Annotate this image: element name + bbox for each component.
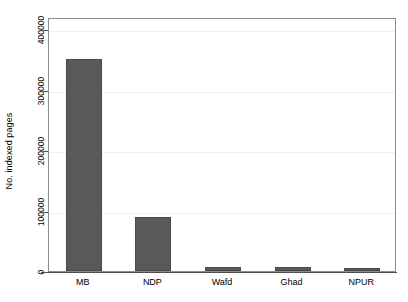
y-axis-title: No. indexed pages (0, 0, 18, 302)
x-tick-label: Wafd (187, 277, 257, 291)
bar (205, 267, 241, 271)
x-axis-line (41, 272, 397, 273)
bar-chart: No. indexed pages 0100000200000300000400… (0, 0, 408, 302)
x-tick-label: NDP (118, 277, 188, 291)
bar (275, 267, 311, 271)
bar (66, 59, 102, 271)
x-tick-label: NPUR (326, 277, 396, 291)
x-tick-label: MB (48, 277, 118, 291)
plot-area (48, 18, 396, 272)
x-tick-label: Ghad (257, 277, 327, 291)
bar (344, 268, 380, 271)
bar (135, 217, 171, 271)
bars-layer (49, 19, 395, 271)
